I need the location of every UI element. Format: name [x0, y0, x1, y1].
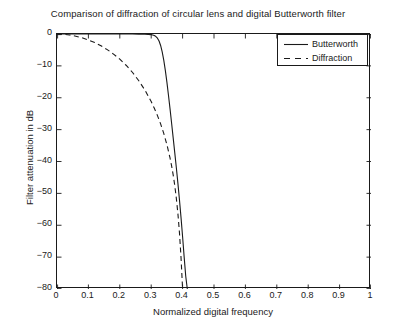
legend-item: Butterworth	[278, 37, 369, 52]
x-axis-label: Normalized digital frequency	[56, 306, 370, 317]
axis-ticks	[57, 34, 371, 289]
y-tick-label: −70	[37, 251, 52, 260]
series-line-diffraction	[57, 34, 183, 289]
legend-line-swatch	[283, 51, 309, 66]
series-line-butterworth	[57, 34, 187, 289]
y-tick-label: −40	[37, 156, 52, 165]
x-tick-label: 1	[350, 291, 390, 300]
legend-label: Diffraction	[312, 53, 352, 64]
legend-item: Diffraction	[278, 51, 369, 66]
y-tick-label: 0	[47, 28, 52, 37]
figure-canvas: Comparison of diffraction of circular le…	[0, 0, 396, 325]
y-tick-label: −30	[37, 124, 52, 133]
chart-title: Comparison of diffraction of circular le…	[0, 8, 396, 19]
plot-svg	[57, 34, 371, 289]
y-tick-label: −50	[37, 187, 52, 196]
y-axis-tick-labels: 0−10−20−30−40−50−60−70−80	[18, 33, 52, 288]
data-series-group	[57, 34, 187, 289]
x-axis-tick-labels: 00.10.20.30.40.50.60.70.80.91	[56, 291, 370, 305]
y-tick-label: −10	[37, 60, 52, 69]
legend-label: Butterworth	[312, 39, 358, 50]
plot-area	[56, 33, 370, 288]
legend-box: ButterworthDiffraction	[277, 34, 368, 66]
legend-line-swatch	[283, 37, 309, 52]
y-tick-label: −60	[37, 219, 52, 228]
y-tick-label: −20	[37, 92, 52, 101]
